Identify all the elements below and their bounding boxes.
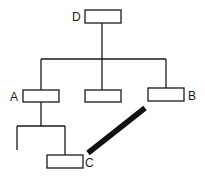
tree-diagram: D A B C: [0, 0, 205, 179]
node-middle-box: [85, 90, 121, 102]
edge-c-b-thick: [88, 108, 145, 153]
node-c-label: C: [85, 156, 94, 170]
node-c-box: [47, 155, 83, 168]
node-a-label: A: [10, 90, 18, 104]
node-b-label: B: [188, 89, 196, 103]
node-d-label: D: [72, 10, 81, 24]
node-a-box: [23, 90, 59, 102]
node-b-box: [148, 88, 184, 101]
node-d-box: [85, 10, 121, 23]
